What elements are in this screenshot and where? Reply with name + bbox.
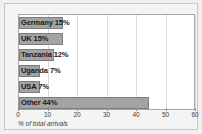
figure-frame: Germany 15%UK 15%Tanzania 12%Uganda 7%US… (4, 3, 198, 130)
x-tick-mark (195, 108, 196, 111)
bar-label: Tanzania 12% (21, 49, 68, 61)
bar-row: USA 7% (19, 79, 196, 95)
x-tick-mark (166, 108, 167, 111)
bar-row: Germany 15% (19, 15, 196, 31)
bar-label: UK 15% (21, 33, 48, 45)
x-tick-mark (48, 108, 49, 111)
x-tick-label: 40 (132, 111, 139, 118)
bar-label: Other 44% (21, 97, 57, 109)
bar-label: Uganda 7% (21, 65, 61, 77)
x-axis-label: % of total arrivals (18, 120, 68, 127)
bar-label: Germany 15% (21, 17, 70, 29)
x-tick-label: 60 (191, 111, 198, 118)
chart-figure: Germany 15%UK 15%Tanzania 12%Uganda 7%US… (0, 0, 202, 134)
bar-row: Other 44% (19, 95, 196, 111)
bar-label: USA 7% (21, 81, 49, 93)
x-tick-mark (18, 108, 19, 111)
x-tick-label: 10 (44, 111, 51, 118)
bar-row: Tanzania 12% (19, 47, 196, 63)
x-tick-label: 50 (162, 111, 169, 118)
bar-row: Uganda 7% (19, 63, 196, 79)
bar-row: UK 15% (19, 31, 196, 47)
x-tick-label: 30 (103, 111, 110, 118)
x-tick-mark (77, 108, 78, 111)
x-tick-mark (136, 108, 137, 111)
plot-area: Germany 15%UK 15%Tanzania 12%Uganda 7%US… (18, 14, 195, 110)
x-tick-label: 0 (16, 111, 20, 118)
x-tick-mark (107, 108, 108, 111)
x-tick-label: 20 (73, 111, 80, 118)
